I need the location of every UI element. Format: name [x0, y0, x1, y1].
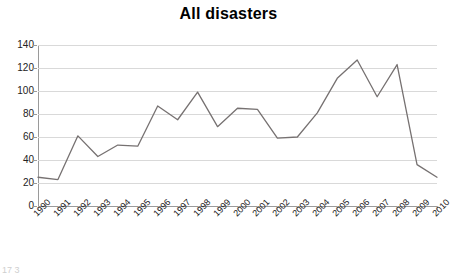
chart-container: All disasters 020406080100120140 17 3 19… — [0, 0, 457, 276]
series-line-chart — [0, 0, 457, 276]
series-polyline — [38, 60, 437, 180]
clipped-footer-text: 17 3 — [2, 266, 20, 276]
